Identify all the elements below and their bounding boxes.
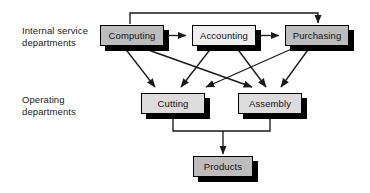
- node-products[interactable]: Products: [193, 156, 253, 177]
- diagram-canvas: Internal service departments Operating d…: [0, 0, 370, 193]
- edge-purchasing-assembly: [281, 47, 310, 87]
- edge-computing-purchasing: [130, 13, 318, 24]
- node-accounting[interactable]: Accounting: [192, 25, 256, 46]
- edge-purchasing-cutting: [206, 47, 296, 87]
- edge-accounting-cutting: [181, 47, 212, 87]
- node-label-cutting: Cutting: [158, 98, 189, 109]
- node-label-computing: Computing: [109, 30, 156, 41]
- node-cutting[interactable]: Cutting: [141, 93, 205, 114]
- node-assembly[interactable]: Assembly: [238, 93, 302, 114]
- node-label-products: Products: [204, 161, 242, 172]
- node-label-purchasing: Purchasing: [293, 30, 342, 41]
- node-purchasing[interactable]: Purchasing: [285, 25, 349, 46]
- edge-computing-cutting: [124, 47, 155, 87]
- node-label-accounting: Accounting: [200, 30, 248, 41]
- node-computing[interactable]: Computing: [100, 25, 164, 46]
- node-label-assembly: Assembly: [249, 98, 291, 109]
